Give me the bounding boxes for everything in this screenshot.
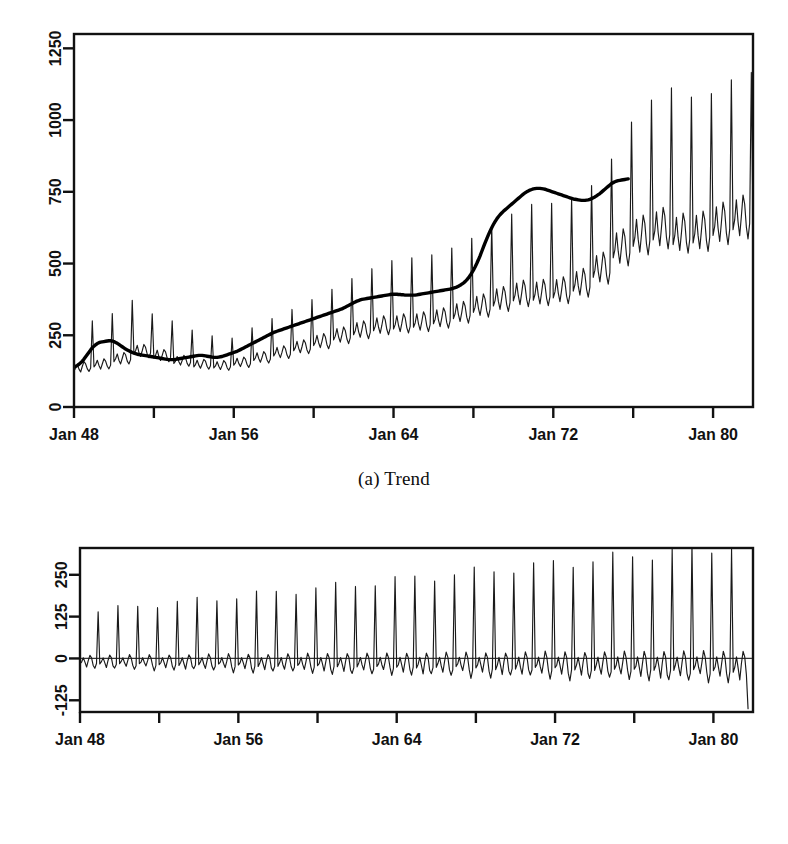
- trend-line: [74, 179, 628, 367]
- x-tick-label: Jan 80: [688, 426, 738, 443]
- y-tick-label: 500: [47, 250, 64, 277]
- seasonality-plot: -1250125250Jan 48Jan 56Jan 64Jan 72Jan 8…: [0, 510, 788, 844]
- panel-trend: 025050075010001250Jan 48Jan 56Jan 64Jan …: [0, 0, 788, 510]
- x-tick-label: Jan 48: [55, 731, 105, 748]
- y-tick-label: 0: [47, 402, 64, 411]
- x-tick-label: Jan 56: [213, 731, 263, 748]
- x-tick-label: Jan 48: [49, 426, 99, 443]
- figure-root: 025050075010001250Jan 48Jan 56Jan 64Jan …: [0, 0, 788, 844]
- y-tick-label: 0: [53, 654, 70, 663]
- y-tick-label: 1250: [47, 30, 64, 66]
- x-tick-label: Jan 72: [530, 731, 580, 748]
- y-tick-label: 250: [47, 322, 64, 349]
- y-tick-label: 125: [53, 603, 70, 630]
- x-tick-label: Jan 56: [209, 426, 259, 443]
- series-group: [80, 545, 753, 709]
- y-tick-label: 250: [53, 561, 70, 588]
- trend-plot: 025050075010001250Jan 48Jan 56Jan 64Jan …: [0, 0, 788, 510]
- x-tick-label: Jan 72: [528, 426, 578, 443]
- panel-seasonality: -1250125250Jan 48Jan 56Jan 64Jan 72Jan 8…: [0, 510, 788, 844]
- observed-line: [80, 545, 748, 709]
- observed-line: [74, 72, 768, 372]
- x-tick-label: Jan 64: [369, 426, 419, 443]
- caption-trend: (a) Trend: [0, 468, 788, 490]
- x-tick-label: Jan 80: [689, 731, 739, 748]
- y-tick-label: 750: [47, 178, 64, 205]
- plot-frame: [74, 34, 753, 407]
- series-group: [74, 72, 768, 372]
- y-tick-label: -125: [53, 684, 70, 716]
- y-tick-label: 1000: [47, 102, 64, 138]
- x-tick-label: Jan 64: [372, 731, 422, 748]
